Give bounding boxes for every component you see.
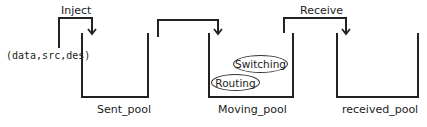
- moving-pool-label: Moving_pool: [218, 104, 287, 115]
- routing-process: Routing: [211, 74, 260, 91]
- inject-label: Inject: [61, 5, 91, 16]
- received-pool-container: [337, 33, 418, 97]
- received-pool-label: received_pool: [342, 104, 418, 115]
- pool-diagram: Inject Receive (data,src,des) Sent_pool …: [0, 0, 427, 127]
- input-tuple-label: (data,src,des): [6, 51, 90, 61]
- receive-label: Receive: [300, 5, 343, 16]
- sent-pool-container: [82, 33, 148, 97]
- receive-arrow: [284, 18, 346, 33]
- sent-pool-label: Sent_pool: [97, 104, 151, 115]
- inject-arrow: [59, 18, 92, 48]
- switching-process: Switching: [233, 55, 288, 73]
